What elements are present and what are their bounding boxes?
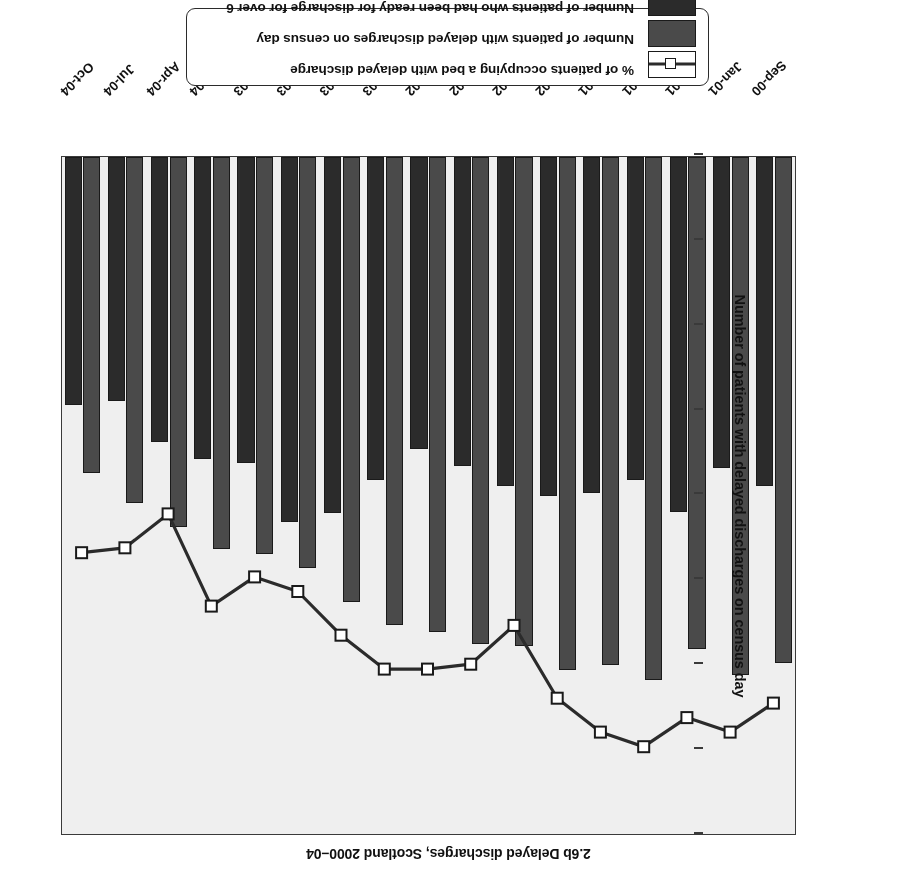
left-tick-mark xyxy=(694,832,703,834)
legend-item-over6weeks: Number of patients who had been ready fo… xyxy=(197,0,696,17)
line-marker xyxy=(379,664,390,675)
line-marker xyxy=(119,542,130,553)
left-tick-mark xyxy=(694,408,703,410)
line-marker xyxy=(638,741,649,752)
left-axis-title: Number of patients with delayed discharg… xyxy=(732,156,748,836)
line-marker xyxy=(465,659,476,670)
line-marker xyxy=(552,693,563,704)
legend-item-over6weeks-label: Number of patients who had been ready fo… xyxy=(197,0,634,17)
line-marker xyxy=(249,571,260,582)
legend-item-total-label: Number of patients with delayed discharg… xyxy=(257,31,634,48)
line-marker xyxy=(595,727,606,738)
line-marker xyxy=(768,698,779,709)
line-marker xyxy=(206,601,217,612)
line-path xyxy=(82,514,774,747)
line-series-layer xyxy=(60,155,795,834)
left-tick-mark xyxy=(694,577,703,579)
line-marker xyxy=(509,620,520,631)
plot-area: Number of patients with delayed discharg… xyxy=(61,156,796,835)
gray-swatch-icon xyxy=(648,20,696,47)
chart-title: 2.6b Delayed discharges, Scotland 2000–0… xyxy=(0,846,897,862)
line-marker xyxy=(422,664,433,675)
scanned-chart-page: 2.6b Delayed discharges, Scotland 2000–0… xyxy=(0,0,897,884)
dark-swatch-icon xyxy=(648,0,696,16)
line-marker xyxy=(681,712,692,723)
left-tick-mark xyxy=(694,153,703,155)
left-tick-mark xyxy=(694,493,703,495)
line-marker xyxy=(336,630,347,641)
line-marker-icon xyxy=(648,51,696,78)
line-marker xyxy=(76,547,87,558)
chart-legend: % of patients occupying a bed with delay… xyxy=(186,8,709,86)
left-tick-mark xyxy=(694,662,703,664)
left-tick-mark xyxy=(694,323,703,325)
line-marker xyxy=(292,586,303,597)
line-marker xyxy=(163,508,174,519)
legend-item-line-label: % of patients occupying a bed with delay… xyxy=(290,62,634,79)
left-tick-mark xyxy=(694,747,703,749)
left-tick-mark xyxy=(694,238,703,240)
legend-item-line: % of patients occupying a bed with delay… xyxy=(197,51,696,79)
legend-item-total: Number of patients with delayed discharg… xyxy=(197,20,696,48)
